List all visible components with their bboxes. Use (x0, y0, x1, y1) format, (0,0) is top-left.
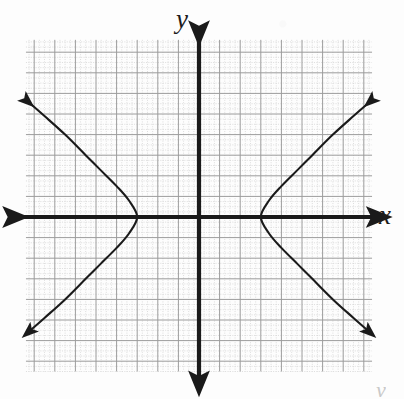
graph-figure: y x y (0, 0, 404, 399)
corner-partial-label: y (376, 379, 386, 397)
coordinate-plane (0, 0, 404, 399)
y-axis-label: y (176, 6, 188, 33)
x-axis-label: x (379, 202, 391, 229)
